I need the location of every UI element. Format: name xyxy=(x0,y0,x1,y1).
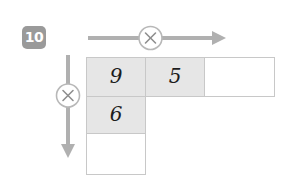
grid-row xyxy=(86,133,274,174)
vertical-multiply-icon-stroke-1 xyxy=(63,91,73,101)
grid-row: 9 5 xyxy=(86,57,274,96)
grid-cell-value: 6 xyxy=(110,102,123,126)
horizontal-multiply-icon-stroke-2 xyxy=(146,33,156,43)
vertical-operator-circle xyxy=(57,84,80,107)
vertical-multiply-icon-stroke-2 xyxy=(63,91,73,101)
multiplication-grid: 9 5 6 xyxy=(86,57,274,174)
horizontal-arrow-head xyxy=(212,31,226,45)
grid-cell-factor-c[interactable]: 6 xyxy=(86,96,146,134)
horizontal-multiply-operator xyxy=(139,27,162,50)
vertical-multiply-operator xyxy=(57,84,80,107)
worksheet-canvas: 10 9 xyxy=(0,0,294,183)
grid-cell-value: 5 xyxy=(169,64,182,88)
vertical-arrow-head xyxy=(61,144,75,158)
grid-cell-value: 9 xyxy=(110,64,123,88)
grid-cell-answer-bottom-left[interactable] xyxy=(86,133,146,175)
grid-cell-factor-a[interactable]: 9 xyxy=(86,57,146,97)
exercise-number-badge: 10 xyxy=(22,26,46,49)
horizontal-multiply-icon-stroke-1 xyxy=(146,33,156,43)
horizontal-operator-circle xyxy=(139,27,162,50)
grid-cell-factor-b[interactable]: 5 xyxy=(145,57,205,97)
grid-row: 6 xyxy=(86,96,274,133)
grid-cell-answer-top-right[interactable] xyxy=(204,57,275,97)
